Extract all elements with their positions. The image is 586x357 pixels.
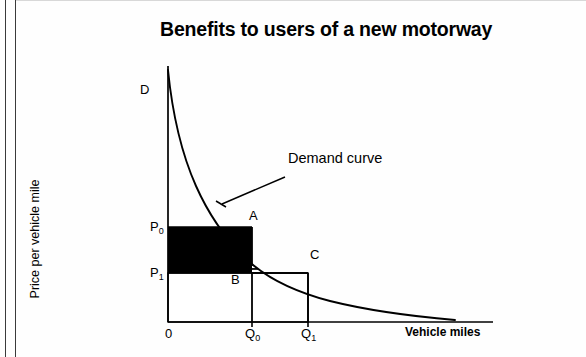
demand-curve-diagram <box>0 0 586 357</box>
demand-curve-leader-tick <box>216 201 226 207</box>
figure-page: Benefits to users of a new motorway <box>0 0 586 357</box>
region-benefit-generated-traffic <box>252 227 310 273</box>
x-tick-label-q1: Q1 <box>301 326 316 341</box>
y-axis-title: Price per vehicle mile <box>28 159 42 319</box>
y-tick-label-p0: P0 <box>150 219 164 234</box>
y-tick-label-p1: P1 <box>150 265 164 280</box>
point-label-d: D <box>140 82 149 97</box>
demand-curve-leader-line <box>222 177 285 204</box>
region-cost-saving-existing-traffic <box>168 227 252 273</box>
x-tick-label-origin: 0 <box>165 326 172 341</box>
x-axis-title: Vehicle miles <box>405 325 480 339</box>
x-tick-label-q0: Q0 <box>245 326 260 341</box>
demand-curve-annotation: Demand curve <box>288 150 382 166</box>
point-label-a: A <box>249 208 258 223</box>
point-label-b: B <box>231 272 240 287</box>
point-label-c: C <box>310 247 319 262</box>
